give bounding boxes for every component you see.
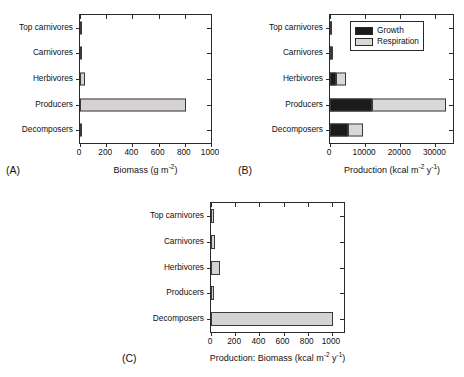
x-tick-label: 200 <box>227 337 241 345</box>
x-tick-label: 600 <box>151 148 165 156</box>
bar <box>80 47 82 60</box>
y-tick-mirror <box>340 242 344 243</box>
x-tick-label: 1000 <box>322 337 340 345</box>
y-tick-mirror <box>207 105 211 106</box>
x-tick-mirror <box>330 15 331 19</box>
panel-a-xlabel-tail: ) <box>174 165 177 175</box>
x-tick-label: 200 <box>98 148 112 156</box>
bar <box>211 312 333 326</box>
panel-c-plot-area <box>210 202 345 333</box>
panel-c-production-biomass: Top carnivoresCarnivoresHerbivoresProduc… <box>100 190 400 377</box>
x-tick-mirror <box>106 15 107 19</box>
y-tick-mirror <box>449 130 453 131</box>
x-tick-label: 800 <box>177 148 191 156</box>
category-label: Herbivores <box>283 74 323 82</box>
y-tick-mirror <box>207 79 211 80</box>
category-label: Decomposers <box>22 125 73 133</box>
panel-b-x-axis-title: Production (kcal m-2 y-1) <box>322 166 462 176</box>
x-tick-mirror <box>332 203 333 207</box>
x-tick-label: 0 <box>77 148 82 156</box>
y-tick-mirror <box>340 293 344 294</box>
category-label: Carnivores <box>283 48 323 56</box>
legend-swatch-growth-icon <box>355 27 373 35</box>
x-tick-mirror <box>284 203 285 207</box>
panel-c-category-labels: Top carnivoresCarnivoresHerbivoresProduc… <box>100 190 204 377</box>
category-label: Top carnivores <box>19 23 73 31</box>
panel-a-letter: (A) <box>6 164 20 176</box>
y-tick-mirror <box>340 319 344 320</box>
x-tick-mirror <box>259 203 260 207</box>
stacked-bar <box>330 73 346 86</box>
legend-label-respiration: Respiration <box>377 37 419 45</box>
y-tick-mirror <box>449 53 453 54</box>
category-label: Decomposers <box>272 125 323 133</box>
x-tick-label: 30000 <box>423 148 446 156</box>
bar <box>211 286 214 300</box>
bar <box>211 235 215 249</box>
stacked-bar <box>330 124 363 137</box>
category-label: Producers <box>285 99 323 107</box>
x-tick-mirror <box>185 15 186 19</box>
x-tick-label: 800 <box>300 337 314 345</box>
y-tick-mirror <box>207 130 211 131</box>
bar-segment-respiration <box>330 21 332 34</box>
panel-b-legend: Growth Respiration <box>350 21 424 51</box>
panel-b-xlabel-text: Production (kcal m <box>344 165 419 175</box>
x-tick-mirror <box>80 15 81 19</box>
category-label: Top carnivores <box>150 211 204 219</box>
x-tick-label: 20000 <box>388 148 411 156</box>
x-tick-mirror <box>211 15 212 19</box>
y-tick-mirror <box>449 28 453 29</box>
panel-b-xlabel-tail: ) <box>437 165 440 175</box>
bar-segment-respiration <box>348 124 364 137</box>
legend-row-respiration: Respiration <box>355 36 419 47</box>
x-tick-mirror <box>132 15 133 19</box>
panel-c-xlabel-tail: ) <box>342 353 345 363</box>
x-tick-mirror <box>365 15 366 19</box>
x-tick-label: 10000 <box>353 148 376 156</box>
panel-b-letter: (B) <box>238 164 252 176</box>
bar <box>80 21 82 34</box>
legend-row-growth: Growth <box>355 25 419 36</box>
category-label: Producers <box>166 288 204 296</box>
panel-b-category-labels: Top carnivoresCarnivoresHerbivoresProduc… <box>232 0 323 190</box>
x-tick-mirror <box>235 203 236 207</box>
category-label: Producers <box>35 99 73 107</box>
category-label: Top carnivores <box>269 23 323 31</box>
y-tick-mirror <box>207 28 211 29</box>
panel-a-category-labels: Top carnivoresCarnivoresHerbivoresProduc… <box>0 0 73 190</box>
x-tick-label: 1000 <box>201 148 219 156</box>
bar-segment-respiration <box>336 73 346 86</box>
bar-segment-growth <box>330 124 348 137</box>
bar <box>211 261 220 275</box>
panel-a-x-axis-title: Biomass (g m-2) <box>79 166 212 176</box>
bar-segment-growth <box>330 98 372 111</box>
category-label: Decomposers <box>153 314 204 322</box>
x-tick-mirror <box>159 15 160 19</box>
x-tick-mirror <box>435 15 436 19</box>
y-tick-mirror <box>340 216 344 217</box>
x-tick-label: 400 <box>251 337 265 345</box>
x-tick-label: 0 <box>327 148 332 156</box>
x-tick-mirror <box>400 15 401 19</box>
panel-c-xlabel-text: Production: Biomass (kcal m <box>210 353 324 363</box>
bar <box>80 73 85 86</box>
bar <box>211 209 214 223</box>
panel-c-letter: (C) <box>122 352 137 364</box>
category-label: Herbivores <box>33 74 73 82</box>
y-tick-mirror <box>340 268 344 269</box>
panel-c-x-axis-title: Production: Biomass (kcal m-2 y-1) <box>175 354 380 364</box>
stacked-bar <box>330 98 446 111</box>
bar-segment-respiration <box>331 47 333 60</box>
bar-segment-respiration <box>372 98 446 111</box>
panel-b-production: Top carnivoresCarnivoresHerbivoresProduc… <box>232 0 464 190</box>
panel-a-biomass: Top carnivoresCarnivoresHerbivoresProduc… <box>0 0 232 190</box>
y-tick-mirror <box>449 79 453 80</box>
panel-a-xlabel-text: Biomass (g m <box>114 165 169 175</box>
category-label: Carnivores <box>33 48 73 56</box>
stacked-bar <box>330 47 332 60</box>
category-label: Carnivores <box>164 237 204 245</box>
ecological-pyramids-figure: Top carnivoresCarnivoresHerbivoresProduc… <box>0 0 464 377</box>
x-tick-mirror <box>211 203 212 207</box>
stacked-bar <box>330 21 332 34</box>
